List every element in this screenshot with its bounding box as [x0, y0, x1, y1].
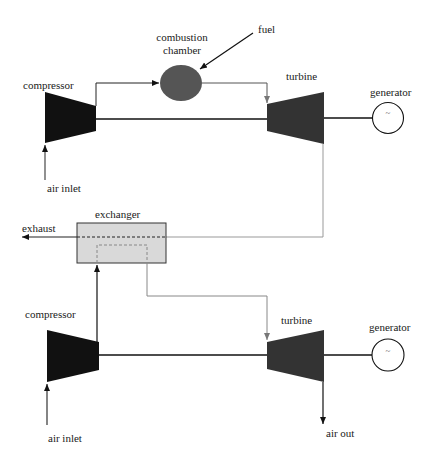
- heated-air-line: [147, 263, 267, 340]
- generator-top-symbol: ~: [380, 107, 396, 119]
- diagram-graphics: [0, 0, 434, 462]
- turbine-bottom-label: turbine: [281, 314, 312, 326]
- generator-bottom-label: generator: [369, 321, 411, 333]
- exchanger-label: exchanger: [95, 208, 140, 220]
- turbine-bottom-icon: [267, 330, 324, 382]
- compressor-bottom-label: compressor: [25, 308, 76, 320]
- turbine-top-icon: [267, 92, 324, 144]
- combustion-chamber-label-1: combustion: [148, 31, 216, 43]
- generator-top-label: generator: [370, 86, 412, 98]
- air-inlet-top-label: air inlet: [47, 182, 81, 194]
- air-out-label: air out: [326, 427, 354, 439]
- fuel-label: fuel: [258, 23, 275, 35]
- hot-exhaust-line: [166, 144, 323, 237]
- compressor-top-icon: [45, 92, 96, 143]
- compressor-bottom-icon: [47, 330, 99, 382]
- chamber-to-turbine-line: [202, 83, 267, 103]
- generator-bottom-symbol: ~: [380, 345, 396, 357]
- air-inlet-bottom-label: air inlet: [48, 432, 82, 444]
- exchanger-box: [77, 223, 166, 263]
- turbine-top-label: turbine: [286, 70, 317, 82]
- combustion-chamber-icon: [160, 65, 202, 101]
- combustion-chamber-label-2: chamber: [148, 44, 216, 56]
- compressor-to-chamber-line: [96, 83, 159, 106]
- diagram-canvas: compressor air inlet combustion chamber …: [0, 0, 434, 462]
- exhaust-label: exhaust: [22, 222, 56, 234]
- compressor-top-label: compressor: [23, 79, 74, 91]
